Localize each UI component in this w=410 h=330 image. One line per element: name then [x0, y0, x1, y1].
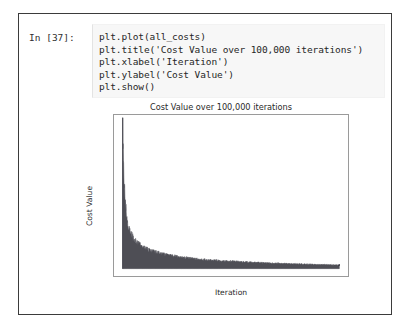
code-line: plt.title('Cost Value over 100,000 itera… [99, 44, 380, 57]
cost-curve-plot [114, 115, 348, 276]
code-line: plt.plot(all_costs) [99, 31, 380, 44]
execution-prompt-label: In [37]: [29, 32, 91, 43]
chart-title: Cost Value over 100,000 iterations [71, 102, 371, 112]
code-line: plt.show() [99, 81, 380, 94]
y-axis-label: Cost Value [85, 186, 94, 226]
y-tick-mark [113, 135, 114, 136]
y-tick-mark [113, 236, 114, 237]
matplotlib-figure: Cost Value over 100,000 iterations Cost … [71, 102, 371, 310]
notebook-cell-frame: In [37]: plt.plot(all_costs) plt.title('… [18, 13, 392, 315]
code-line: plt.ylabel('Cost Value') [99, 69, 380, 82]
x-axis-label: Iteration [113, 288, 349, 297]
plot-axes: 0.00.10.20.30.40200004000060000800001000… [113, 114, 349, 277]
code-editor-area[interactable]: plt.plot(all_costs) plt.title('Cost Valu… [92, 24, 385, 98]
x-tick-mark [254, 276, 255, 277]
y-tick-mark [113, 169, 114, 170]
cost-curve-band [123, 118, 340, 269]
figure-output-area: Cost Value over 100,000 iterations Cost … [19, 102, 393, 314]
x-tick-mark [123, 276, 124, 277]
y-tick-mark [113, 202, 114, 203]
x-tick-mark [298, 276, 299, 277]
x-tick-mark [210, 276, 211, 277]
x-tick-mark [341, 276, 342, 277]
code-input-cell[interactable]: In [37]: plt.plot(all_costs) plt.title('… [19, 22, 393, 100]
code-line: plt.xlabel('Iteration') [99, 56, 380, 69]
y-tick-mark [113, 270, 114, 271]
x-tick-mark [166, 276, 167, 277]
